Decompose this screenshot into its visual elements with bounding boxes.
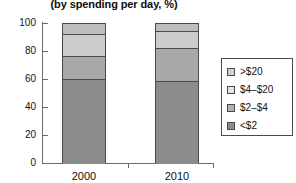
segment-divider: [156, 81, 198, 82]
y-axis-label: 100: [4, 18, 36, 28]
chart-legend: >$20$4–$20$2–$4<$2: [221, 58, 293, 136]
segment-divider: [63, 56, 105, 57]
segment-divider: [63, 34, 105, 35]
bar-segment-2000->$20: [63, 24, 105, 34]
x-axis-tick: [128, 164, 129, 168]
segment-divider: [156, 48, 198, 49]
legend-item[interactable]: >$20: [227, 63, 292, 81]
bar-segment-2010->$20: [156, 24, 198, 31]
y-axis-tick: [43, 79, 48, 80]
x-axis-label-2010: 2010: [147, 170, 207, 182]
legend-swatch-icon: [227, 122, 235, 130]
y-axis-tick: [43, 135, 48, 136]
bar-2010: [155, 23, 199, 163]
legend-item[interactable]: <$2: [227, 117, 292, 135]
x-axis-label-2000: 2000: [54, 170, 114, 182]
chart-title: (by spending per day, %): [0, 0, 228, 11]
legend-swatch-icon: [227, 68, 235, 76]
legend-label: $2–$4: [240, 103, 268, 113]
segment-divider: [156, 31, 198, 32]
legend-item[interactable]: $4–$20: [227, 81, 292, 99]
y-axis-tick: [43, 163, 48, 164]
y-axis-tick: [43, 51, 48, 52]
y-axis-line: [42, 22, 43, 164]
bar-segment-2000-<$2: [63, 79, 105, 164]
y-axis-label: 60: [4, 74, 36, 84]
y-axis-label: 40: [4, 102, 36, 112]
bar-segment-2010-$2-$4: [156, 48, 198, 82]
bar-segment-2000-$2-$4: [63, 56, 105, 78]
legend-item[interactable]: $2–$4: [227, 99, 292, 117]
legend-swatch-icon: [227, 86, 235, 94]
y-axis-label: 0: [4, 158, 36, 168]
bar-segment-2010-$4-$20: [156, 31, 198, 48]
legend-swatch-icon: [227, 104, 235, 112]
y-axis-label: 20: [4, 130, 36, 140]
y-axis-label: 80: [4, 46, 36, 56]
chart-figure: (by spending per day, %) 100806040200 20…: [0, 0, 296, 183]
segment-divider: [63, 79, 105, 80]
legend-label: $4–$20: [240, 85, 273, 95]
y-axis-tick: [43, 23, 48, 24]
legend-label: <$2: [240, 121, 257, 131]
legend-label: >$20: [240, 67, 263, 77]
y-axis-tick: [43, 107, 48, 108]
bar-2000: [62, 23, 106, 163]
bar-segment-2010-<$2: [156, 81, 198, 164]
x-axis-tick: [213, 164, 214, 168]
bar-segment-2000-$4-$20: [63, 34, 105, 56]
